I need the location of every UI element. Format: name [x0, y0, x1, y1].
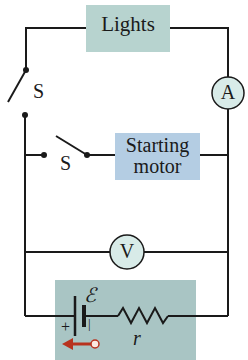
starting-motor-label: Starting motor	[115, 135, 200, 177]
voltmeter-label: V	[110, 240, 144, 263]
ammeter-label: A	[212, 81, 244, 104]
starting-motor-label-line2: motor	[115, 156, 200, 177]
resistor-label: r	[133, 327, 141, 350]
starting-motor-label-line1: Starting	[115, 135, 200, 156]
switch-lower-right-dot	[84, 152, 90, 158]
plus-label: +	[61, 318, 70, 336]
lights-label: Lights	[86, 12, 170, 37]
emf-label: ℰ	[84, 283, 96, 307]
switch-upper-label: S	[33, 80, 44, 103]
switch-lower-label: S	[60, 152, 71, 175]
switch-upper-bottom-dot	[22, 112, 28, 118]
circuit-diagram	[0, 0, 248, 360]
switch-lower-left-dot	[41, 152, 47, 158]
minus-label: |	[88, 316, 91, 332]
switch-upper-top-dot	[23, 67, 29, 73]
current-arrow-tail	[91, 340, 99, 348]
